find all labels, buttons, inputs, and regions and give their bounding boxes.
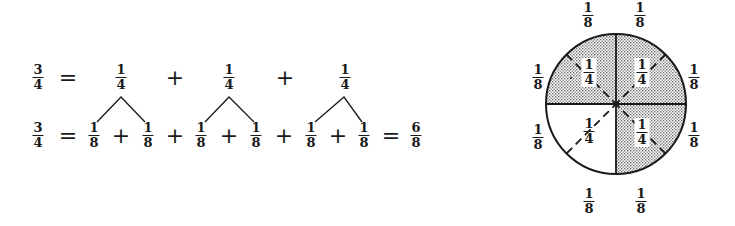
numerator: 1 [582,2,593,14]
plus-sign: + [220,125,238,147]
fraction-row2-result: 6 8 [410,122,421,149]
equals-sign: = [59,125,77,147]
denominator: 8 [688,137,699,149]
numerator: 1 [532,64,543,76]
denominator: 8 [532,139,543,151]
plus-sign: + [329,125,347,147]
fraction-row2-term-6: 1 8 [358,122,369,149]
quarter-label-bottom-left: 1 4 [583,118,594,145]
denominator: 8 [358,137,369,149]
fraction-row1-term-1: 1 4 [115,64,126,91]
fraction-row2-term-1: 1 8 [88,122,99,149]
numerator: 1 [636,119,647,131]
eighth-label-left-upper: 1 8 [532,64,543,91]
fraction-row1-term-2: 1 4 [223,64,234,91]
numerator: 1 [583,59,594,71]
eighth-label-bottom-left: 1 8 [583,188,594,215]
eighth-label-top-right: 1 8 [634,2,645,29]
denominator: 8 [634,17,645,29]
fraction-circle [546,34,686,174]
equals-sign-result: = [382,125,400,147]
denominator: 4 [636,74,647,86]
fraction-row1-term-3: 1 4 [339,64,350,91]
fraction-row2-term-4: 1 8 [250,122,261,149]
denominator: 4 [32,137,43,149]
numerator: 3 [32,64,43,76]
plus-sign: + [166,67,184,89]
quarter-label-bottom-right: 1 4 [634,118,649,147]
numerator: 6 [410,122,421,134]
eighth-label-top-left: 1 8 [582,2,593,29]
numerator: 1 [688,64,699,76]
denominator: 8 [635,203,646,215]
denominator: 8 [305,137,316,149]
fraction-row2-term-5: 1 8 [305,122,316,149]
denominator: 8 [582,17,593,29]
denominator: 8 [88,137,99,149]
quadrant-bottom-right [616,104,686,174]
quarter-label-top-left: 1 4 [581,58,596,87]
tree-branch-1 [97,97,145,122]
fraction-row1-lhs: 3 4 [32,64,43,91]
diagram-graphics [0,0,735,226]
plus-sign: + [275,125,293,147]
plus-sign: + [166,125,184,147]
numerator: 1 [358,122,369,134]
numerator: 1 [115,64,126,76]
denominator: 8 [142,137,153,149]
denominator: 8 [250,137,261,149]
plus-sign: + [276,67,294,89]
numerator: 1 [532,124,543,136]
denominator: 4 [583,74,594,86]
tree-connectors [97,97,362,122]
eighth-label-bottom-right: 1 8 [635,188,646,215]
numerator: 1 [195,122,206,134]
quadrant-top-right [616,34,686,104]
plus-sign: + [112,125,130,147]
eighth-label-right-upper: 1 8 [688,64,699,91]
quarter-label-top-right: 1 4 [634,58,649,87]
numerator: 1 [250,122,261,134]
denominator: 4 [636,134,647,146]
eighth-label-left-lower: 1 8 [532,124,543,151]
equals-sign: = [59,67,77,89]
numerator: 1 [88,122,99,134]
fraction-row2-term-2: 1 8 [142,122,153,149]
tree-branch-3 [315,97,362,122]
quadrant-bottom-left [546,104,616,174]
denominator: 8 [583,203,594,215]
numerator: 1 [635,188,646,200]
numerator: 3 [32,122,43,134]
numerator: 1 [636,59,647,71]
denominator: 4 [115,79,126,91]
denominator: 4 [339,79,350,91]
numerator: 1 [583,188,594,200]
numerator: 1 [223,64,234,76]
numerator: 1 [583,118,594,130]
denominator: 4 [223,79,234,91]
numerator: 1 [688,122,699,134]
fraction-row2-lhs: 3 4 [32,122,43,149]
tree-branch-2 [205,97,254,122]
denominator: 8 [410,137,421,149]
fraction-row2-term-3: 1 8 [195,122,206,149]
numerator: 1 [634,2,645,14]
numerator: 1 [339,64,350,76]
center-point [614,102,618,106]
circle-outline [546,34,686,174]
denominator: 4 [583,133,594,145]
eighth-label-right-lower: 1 8 [688,122,699,149]
denominator: 4 [32,79,43,91]
denominator: 8 [195,137,206,149]
stray-dot [570,77,572,79]
denominator: 8 [532,79,543,91]
denominator: 8 [688,79,699,91]
numerator: 1 [142,122,153,134]
numerator: 1 [305,122,316,134]
